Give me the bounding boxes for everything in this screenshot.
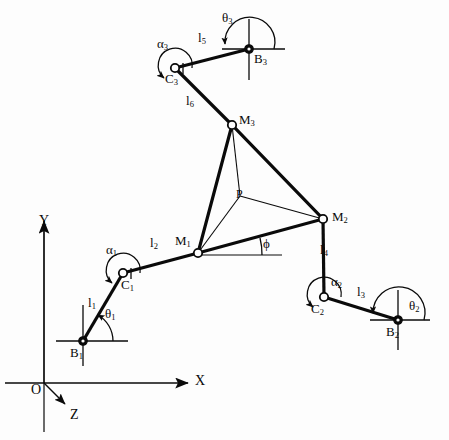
angle-label-theta3: θ3 <box>222 11 232 25</box>
phi-arc <box>260 238 262 255</box>
platform-outline <box>198 125 323 253</box>
x-axis-label: X <box>195 374 205 388</box>
kinematic-diagram: Y X Z O B1 B2 B3 C1 C2 C3 M1 M2 M3 P l1 … <box>0 0 449 440</box>
angle-label-alpha2: α2 <box>331 275 342 289</box>
angle-label-theta1: θ1 <box>105 307 115 321</box>
link-label-l2: l2 <box>150 236 158 250</box>
joint-B3-inner <box>247 47 250 50</box>
link-l4 <box>323 219 324 297</box>
joint-M1 <box>194 249 202 257</box>
moving-platform-triangle <box>198 125 323 253</box>
angle-label-alpha3: α3 <box>157 37 168 51</box>
joint-label-C3: C3 <box>165 72 178 86</box>
angle-label-alpha1: α1 <box>106 243 117 257</box>
link-l2 <box>123 253 198 273</box>
joint-label-M2: M2 <box>332 210 348 224</box>
z-axis <box>44 383 65 404</box>
joint-M3 <box>228 121 236 129</box>
angle-label-theta2: θ2 <box>409 299 419 313</box>
origin-label: O <box>31 383 41 397</box>
platform-center-label: P <box>236 188 243 200</box>
joint-M2 <box>319 215 327 223</box>
spoke-p-m3 <box>232 125 240 196</box>
link-label-l1: l1 <box>88 296 96 310</box>
joint-label-B2: B2 <box>386 325 399 339</box>
y-axis-label: Y <box>39 214 49 228</box>
link-label-l3: l3 <box>357 285 365 299</box>
link-label-l6: l6 <box>186 94 194 108</box>
link-l3 <box>324 297 398 320</box>
link-label-l5: l5 <box>198 31 206 45</box>
joint-label-M1: M1 <box>175 234 191 248</box>
joint-label-B3: B3 <box>254 52 267 66</box>
coordinate-frame <box>5 221 188 432</box>
joint-label-M3: M3 <box>239 113 255 127</box>
joint-C2 <box>320 293 328 301</box>
z-axis-label: Z <box>70 408 79 422</box>
joint-B1-inner <box>81 339 84 342</box>
joint-B2-inner <box>396 318 399 321</box>
joint-label-C1: C1 <box>121 278 134 292</box>
diagram-canvas <box>0 0 449 440</box>
platform-center-spokes <box>198 125 323 253</box>
link-label-l4: l4 <box>320 243 328 257</box>
joint-C1 <box>119 269 127 277</box>
link-l6 <box>175 68 232 125</box>
joint-label-C2: C2 <box>311 302 324 316</box>
angle-label-phi: ϕ <box>263 237 270 251</box>
joint-label-B1: B1 <box>70 346 83 360</box>
